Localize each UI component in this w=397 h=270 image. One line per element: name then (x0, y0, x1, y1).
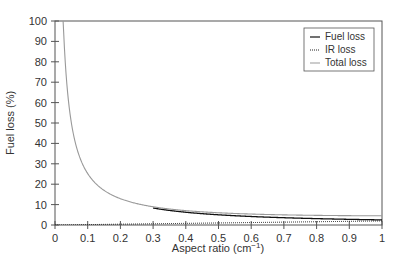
y-tick-label: 100 (29, 15, 47, 27)
chart: 0102030405060708090100 00.10.20.30.40.50… (0, 0, 397, 270)
x-tick-label: 1 (379, 232, 385, 244)
y-tick-label: 20 (35, 178, 47, 190)
x-tick-label: 0.3 (145, 232, 160, 244)
y-tick-label: 40 (35, 137, 47, 149)
x-tick-label: 0.2 (113, 232, 128, 244)
y-axis: 0102030405060708090100 (29, 15, 59, 231)
y-tick-label: 10 (35, 199, 47, 211)
legend-ir-label: IR loss (325, 44, 356, 55)
y-tick-label: 0 (41, 219, 47, 231)
fuel-loss-line (153, 208, 382, 220)
legend-total-label: Total loss (325, 57, 367, 68)
y-tick-label: 50 (35, 117, 47, 129)
y-tick-label: 90 (35, 35, 47, 47)
legend: Fuel loss IR loss Total loss (304, 28, 374, 71)
x-tick-label: 0.1 (80, 232, 95, 244)
x-tick-label: 0 (52, 232, 58, 244)
legend-fuel-label: Fuel loss (325, 31, 365, 42)
y-tick-label: 70 (35, 76, 47, 88)
x-tick-label: 0.9 (342, 232, 357, 244)
y-tick-label: 30 (35, 158, 47, 170)
x-tick-label: 0.8 (309, 232, 324, 244)
y-tick-label: 60 (35, 97, 47, 109)
x-axis-title: Aspect ratio (cm−1) (172, 241, 264, 254)
y-axis-title: Fuel loss (%) (4, 91, 16, 155)
x-tick-label: 0.7 (276, 232, 291, 244)
y-tick-label: 80 (35, 56, 47, 68)
